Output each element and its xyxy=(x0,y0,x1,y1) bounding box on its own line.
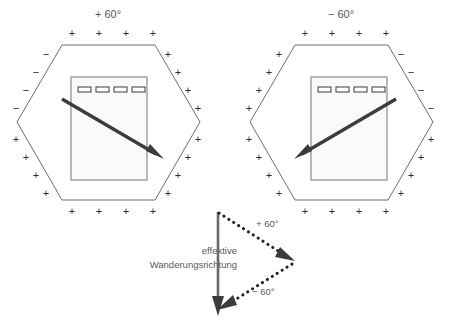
electrode-sign: + xyxy=(150,27,156,39)
electrode-sign: + xyxy=(165,187,171,199)
electrode-sign: + xyxy=(428,133,434,145)
electrode-sign: + xyxy=(165,48,171,60)
panel-right-angle-label: − 60° xyxy=(328,8,354,20)
electrode-sign: + xyxy=(123,205,129,217)
electrode-sign: + xyxy=(123,27,129,39)
vector-diagram: effektive Wanderungsrichtung + 60° − 60° xyxy=(150,212,295,316)
gel-well xyxy=(114,87,127,92)
electrode-sign: + xyxy=(302,205,308,217)
electrode-sign: + xyxy=(383,205,389,217)
electrode-sign: + xyxy=(96,205,102,217)
electrode-sign: + xyxy=(329,27,335,39)
electrode-sign: + xyxy=(43,187,49,199)
electrode-sign: + xyxy=(69,27,75,39)
gel-well xyxy=(132,87,145,92)
electrode-sign: + xyxy=(246,102,252,114)
electrode-sign: + xyxy=(175,66,181,78)
electrode-sign: + xyxy=(383,27,389,39)
electrode-sign: + xyxy=(356,27,362,39)
electrode-sign: + xyxy=(408,169,414,181)
electrode-sign: + xyxy=(246,133,252,145)
component-label-plus60: + 60° xyxy=(256,218,279,229)
electrode-sign: + xyxy=(398,187,404,199)
electrode-sign: + xyxy=(185,84,191,96)
panel-right: − 60° + + + + + + + + + + + + xyxy=(246,8,434,217)
electrode-sign: + xyxy=(69,205,75,217)
gel-well xyxy=(318,87,331,92)
component-label-minus60: − 60° xyxy=(252,286,275,297)
vector-caption-line-2: Wanderungsrichtung xyxy=(150,259,237,270)
vector-caption-line-1: effektive xyxy=(202,245,237,256)
electrode-sign: + xyxy=(150,205,156,217)
electrode-sign: + xyxy=(418,151,424,163)
electrode-sign: + xyxy=(33,169,39,181)
panel-right-electrodes-upper-right: − − − − xyxy=(398,48,434,114)
gel-well xyxy=(336,87,349,92)
electrode-sign: + xyxy=(356,205,362,217)
electrode-sign: + xyxy=(266,66,272,78)
electrode-sign: − xyxy=(408,66,414,78)
panel-left-electrodes-lower-right: + + + + xyxy=(165,133,201,199)
panel-left-electrodes-upper-left: − − − − xyxy=(13,48,49,114)
electrode-sign: + xyxy=(23,151,29,163)
panel-left-electrodes-upper-right: + + + + xyxy=(165,48,201,114)
electrode-sign: + xyxy=(266,169,272,181)
gel-well xyxy=(354,87,367,92)
electrode-sign: − xyxy=(43,48,49,60)
electrode-sign: + xyxy=(195,133,201,145)
electrode-sign: + xyxy=(195,102,201,114)
panel-right-electrodes-upper-left: + + + + xyxy=(246,48,282,114)
electrode-sign: + xyxy=(175,169,181,181)
electrode-sign: + xyxy=(329,205,335,217)
panel-right-electrodes-lower-right: + + + + xyxy=(398,133,434,199)
figure-canvas: + 60° + + + + + + + + − − − − xyxy=(0,0,450,325)
electrode-sign: + xyxy=(256,151,262,163)
electrode-sign: − xyxy=(418,84,424,96)
electrode-sign: − xyxy=(428,102,434,114)
panel-right-electrodes-top: + + + + xyxy=(302,27,389,39)
gel-well xyxy=(372,87,385,92)
electrode-sign: + xyxy=(13,133,19,145)
panel-left: + 60° + + + + + + + + − − − − xyxy=(13,8,201,217)
panel-left-electrodes-top: + + + + xyxy=(69,27,156,39)
electrode-sign: + xyxy=(276,187,282,199)
pfge-field-direction-figure: + 60° + + + + + + + + − − − − xyxy=(0,0,450,325)
electrode-sign: + xyxy=(302,27,308,39)
electrode-sign: − xyxy=(13,102,19,114)
gel-well xyxy=(78,87,91,92)
panel-left-angle-label: + 60° xyxy=(95,8,121,20)
electrode-sign: + xyxy=(256,84,262,96)
panel-left-electrodes-lower-left: + + + + xyxy=(13,133,49,199)
panel-left-electrodes-bottom: + + + + xyxy=(69,205,156,217)
electrode-sign: − xyxy=(398,48,404,60)
gel-well xyxy=(96,87,109,92)
electrode-sign: − xyxy=(33,66,39,78)
panel-right-electrodes-bottom: + + + + xyxy=(302,205,389,217)
electrode-sign: + xyxy=(276,48,282,60)
panel-right-electrodes-lower-left: + + + + xyxy=(246,133,282,199)
electrode-sign: + xyxy=(185,151,191,163)
electrode-sign: + xyxy=(96,27,102,39)
electrode-sign: − xyxy=(23,84,29,96)
